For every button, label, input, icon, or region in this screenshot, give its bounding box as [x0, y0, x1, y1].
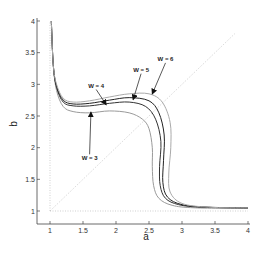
data-series — [51, 21, 248, 208]
x-tick-label: 2 — [114, 227, 118, 234]
x-ticks: 11.522.533.54 — [48, 221, 250, 234]
y-tick-label: 2.5 — [25, 113, 35, 120]
axes — [37, 18, 250, 224]
y-tick-label: 3 — [31, 81, 35, 88]
series-line-w4 — [51, 21, 248, 208]
y-axis-label: b — [8, 121, 19, 127]
x-tick-label: 4 — [246, 227, 250, 234]
reference-line — [50, 34, 235, 211]
x-tick-label: 3 — [180, 227, 184, 234]
series-line-w6 — [51, 21, 248, 208]
annotations: W = 3W = 4W = 5W = 6 — [82, 56, 174, 161]
y-tick-label: 4 — [31, 18, 35, 25]
annotation-arrow — [133, 74, 141, 100]
y-tick-label: 2 — [31, 144, 35, 151]
x-axis-label: a — [143, 231, 149, 242]
annotation-arrow — [152, 63, 165, 94]
annotation-label: W = 3 — [82, 155, 99, 161]
reference-lines — [50, 21, 248, 211]
series-line-w5 — [51, 21, 248, 208]
series-line-w3 — [51, 21, 248, 208]
chart: 11.522.533.54 11.522.533.54 a b W = 3W =… — [0, 0, 261, 254]
annotation-label: W = 5 — [133, 67, 150, 73]
y-tick-label: 1.5 — [25, 176, 35, 183]
y-tick-label: 1 — [31, 208, 35, 215]
annotation-label: W = 6 — [158, 56, 175, 62]
x-tick-label: 1.5 — [78, 227, 88, 234]
x-tick-label: 1 — [48, 227, 52, 234]
annotation-arrow — [90, 112, 91, 154]
annotation-label: W = 4 — [88, 83, 105, 89]
x-tick-label: 3.5 — [210, 227, 220, 234]
y-tick-label: 3.5 — [25, 49, 35, 56]
y-ticks: 11.522.533.54 — [25, 18, 40, 215]
